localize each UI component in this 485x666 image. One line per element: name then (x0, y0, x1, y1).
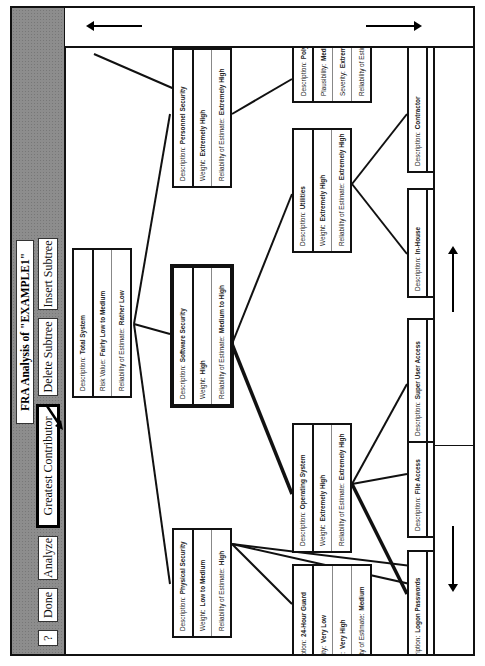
node-total-system[interactable]: Description:Total System Risk Value:Fair… (72, 248, 132, 398)
horizontal-scrollbar[interactable] (433, 46, 473, 654)
stage: FRA Analysis of "EXAMPLE1" ? Done Analyz… (0, 0, 485, 666)
node-description: Description:Contractor (409, 40, 428, 171)
node-personnel-security[interactable]: Description:Personnel Security Weight:Ex… (172, 48, 232, 188)
node-weight: Weight:High (194, 268, 213, 404)
node-weight: Weight:Low to Medium (194, 530, 213, 636)
node-utilities[interactable]: Description:Utilities Weight:Extremely H… (292, 128, 352, 253)
node-weight: Weight:Extremely High (314, 425, 333, 551)
fra-window: FRA Analysis of "EXAMPLE1" ? Done Analyz… (10, 6, 475, 656)
node-24-hour-guard[interactable]: iption:24-Hour Guard ility:Very Low y:Ve… (292, 564, 372, 654)
node-weight: Weight:Extremely High (194, 50, 213, 186)
scroll-down-arrow-icon[interactable] (364, 18, 424, 34)
node-physical-security[interactable]: Description:Physical Security Weight:Low… (172, 528, 232, 638)
done-button[interactable]: Done (38, 588, 58, 622)
node-software-security[interactable]: Description:Software Security Weight:Hig… (170, 264, 234, 408)
scroll-up-arrow-icon[interactable] (84, 18, 144, 34)
node-weight: Weight:Extremely High (314, 130, 333, 251)
node-description: Description:In-House (409, 190, 428, 296)
node-reliability: Reliability of Estimate:Medium to High (212, 268, 230, 404)
tree-canvas: Description:Total System Risk Value:Fair… (64, 8, 473, 654)
node-description: Description:Utilities (294, 130, 314, 251)
node-severity: y:Very High (333, 566, 352, 654)
node-description: Description:Software Security (174, 268, 194, 404)
help-button[interactable]: ? (38, 630, 58, 646)
node-operating-system[interactable]: Description:Operating System Weight:Extr… (292, 423, 352, 553)
delete-subtree-button[interactable]: Delete Subtree (38, 318, 58, 396)
node-description: ription:Logon Passwords (409, 552, 428, 654)
node-description: Description:Personnel Security (174, 50, 194, 186)
node-reliability: Reliability of Estimate:Extremely High (332, 425, 350, 551)
node-reliability: Reliability of Estimate:Extremely High (212, 50, 230, 186)
node-reliability: Reliability of Estimate:High (212, 530, 230, 636)
node-plausibility: ility:Very Low (314, 566, 333, 654)
vertical-scrollbar[interactable] (64, 8, 473, 48)
node-reliability: Reliability of Estimate:Extremely High (332, 130, 350, 251)
node-description: Description:Operating System (294, 425, 314, 551)
scrollbar-divider (435, 445, 473, 446)
scroll-left-arrow-icon[interactable] (445, 524, 461, 594)
node-description: Description:Physical Security (174, 530, 194, 636)
node-risk-value: Risk Value:Fairly Low to Medium (94, 250, 113, 396)
insert-subtree-button[interactable]: Insert Subtree (38, 238, 58, 310)
scroll-right-arrow-icon[interactable] (445, 244, 461, 314)
window-title: FRA Analysis of "EXAMPLE1" (16, 240, 34, 424)
analyze-button[interactable]: Analyze (38, 536, 58, 580)
node-reliability: Reliability of Estimate:Rather Low (112, 250, 130, 396)
node-description: Description:Super User Access (409, 320, 428, 441)
toolbar: FRA Analysis of "EXAMPLE1" ? Done Analyz… (12, 8, 66, 654)
node-description: Description:Total System (74, 250, 94, 396)
node-reliability: lity of Estimate:Medium (352, 566, 370, 654)
node-description: iption:24-Hour Guard (294, 566, 314, 654)
mouse-pointer-icon (45, 404, 65, 432)
scrollbar-divider (64, 8, 65, 46)
